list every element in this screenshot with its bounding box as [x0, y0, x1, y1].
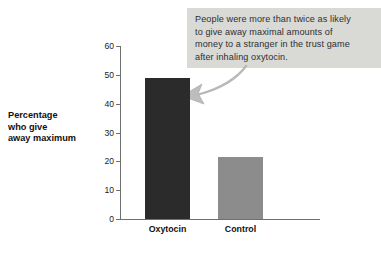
y-axis-title-line-2: who give — [8, 122, 100, 134]
y-tick-label: 0 — [109, 214, 114, 224]
y-axis-title-line-3: away maximum — [8, 133, 100, 145]
y-tick-mark — [116, 161, 120, 162]
bar-oxytocin — [145, 78, 190, 219]
bar-control — [218, 157, 263, 219]
bar-chart-figure: People were more than twice as likely to… — [0, 0, 381, 255]
y-tick-label: 50 — [104, 70, 114, 80]
y-tick-mark — [116, 104, 120, 105]
callout-line-1: People were more than twice as likely — [195, 13, 373, 26]
plot-area: 60 50 40 30 20 10 0 Oxytocin — [120, 46, 320, 219]
y-axis-title-line-1: Percentage — [8, 110, 100, 122]
y-tick-label: 10 — [104, 185, 114, 195]
y-tick-mark — [116, 75, 120, 76]
y-axis-line — [120, 46, 121, 220]
x-tick-label-control: Control — [225, 224, 256, 234]
y-tick-mark — [116, 133, 120, 134]
callout-line-2: to give away maximal amounts of — [195, 26, 373, 39]
y-tick-label: 60 — [104, 41, 114, 51]
x-axis-line — [120, 219, 320, 220]
y-tick-mark — [116, 190, 120, 191]
x-tick-label-oxytocin: Oxytocin — [149, 224, 187, 234]
y-tick-mark — [116, 219, 120, 220]
y-tick-label: 30 — [104, 128, 114, 138]
y-tick-label: 20 — [104, 156, 114, 166]
y-tick-label: 40 — [104, 99, 114, 109]
y-tick-mark — [116, 46, 120, 47]
y-axis-title: Percentage who give away maximum — [8, 110, 100, 145]
